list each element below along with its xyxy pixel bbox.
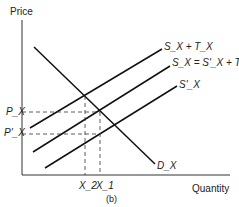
supply-plus-tax-curve xyxy=(30,49,162,128)
label-supply-plus-tax: S_X + T_X xyxy=(164,42,213,52)
diagram-canvas xyxy=(0,0,239,207)
label-x1: X_1 xyxy=(96,181,114,191)
label-x2: X_2 xyxy=(79,181,97,191)
label-px: P_X xyxy=(6,107,25,117)
supply-equals-curve xyxy=(33,66,170,152)
label-supply-prime: S'_X xyxy=(179,80,200,90)
label-demand: D_X xyxy=(157,161,176,171)
x-axis-label: Quantity xyxy=(192,184,229,194)
caption: (b) xyxy=(106,194,117,204)
supply-prime-curve xyxy=(45,86,177,168)
label-px-prime: P'_X xyxy=(4,128,25,138)
label-supply-equals: S_X = S'_X + T_X xyxy=(172,58,239,68)
y-axis-label: Price xyxy=(10,7,33,17)
